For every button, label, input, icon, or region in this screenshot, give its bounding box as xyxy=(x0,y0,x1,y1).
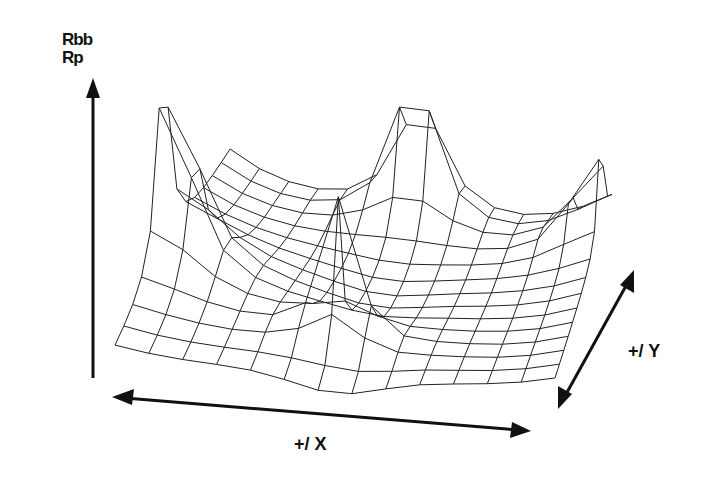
y-axis-label: +/ Y xyxy=(628,341,660,362)
mesh-line xyxy=(555,159,612,378)
mesh-line xyxy=(217,189,319,365)
mesh-line xyxy=(124,326,560,371)
mesh-line xyxy=(454,214,524,384)
mesh-line xyxy=(177,189,586,296)
mesh-line xyxy=(115,345,555,394)
mesh-line xyxy=(386,186,465,389)
mesh-line xyxy=(149,169,260,354)
mesh-line xyxy=(221,107,607,224)
mesh-line xyxy=(420,208,495,385)
z-axis-arrow xyxy=(86,78,100,378)
z-axis-label-top: Rbb xyxy=(62,30,92,50)
surface-plot-figure: Rbb Rp +/ X +/ Y xyxy=(0,0,709,479)
x-axis-arrow xyxy=(112,389,531,438)
y-axis-arrow xyxy=(558,270,634,409)
mesh-line xyxy=(195,197,595,265)
mesh-line xyxy=(142,197,569,344)
z-axis-label-bottom: Rp xyxy=(62,48,83,68)
wireframe-mesh xyxy=(115,107,612,394)
x-axis-label: +/ X xyxy=(294,434,327,455)
mesh-line xyxy=(352,111,436,394)
mesh-line xyxy=(487,213,553,383)
surface-plot xyxy=(0,0,709,479)
